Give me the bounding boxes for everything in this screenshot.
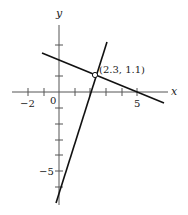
y-axis-label: y: [55, 7, 63, 20]
plot-svg: x y −2 0 5 −5 (2.3, 1.1): [0, 0, 188, 215]
x-tick-label-neg2: −2: [20, 98, 35, 109]
x-tick-label-5: 5: [134, 98, 140, 109]
y-tick-label-neg5: −5: [39, 166, 54, 177]
x-tick-label-0: 0: [50, 95, 56, 106]
intersection-label: (2.3, 1.1): [99, 64, 145, 75]
intersection-point: [92, 72, 97, 77]
x-axis-label: x: [171, 85, 178, 98]
chart-canvas: x y −2 0 5 −5 (2.3, 1.1): [0, 0, 188, 215]
line-shallow: [42, 53, 164, 103]
